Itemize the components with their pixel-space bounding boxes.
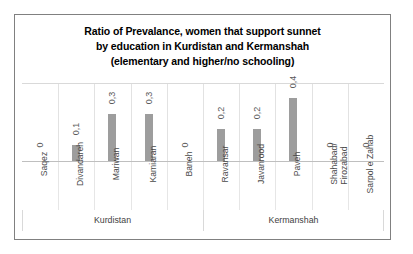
category-tick-label-line: Divandareh: [76, 142, 86, 186]
category-tick-label-line: Ravansar: [221, 146, 231, 183]
bar-value-label: 0,2: [216, 107, 226, 120]
bar-value-label: 0: [35, 142, 45, 147]
bar-value-label: 0,1: [71, 123, 81, 136]
group-axis: KurdistanKermanshah: [22, 210, 384, 231]
category-tick-label: Mariwan: [94, 164, 130, 210]
bar-column: 0,4: [275, 84, 311, 161]
category-tick-label: Divandareh: [58, 164, 94, 210]
category-tick-label: Javanrood: [239, 164, 275, 210]
chart-title-line-1: Ratio of Prevalance, women that support …: [15, 24, 390, 39]
bar-column: 0: [167, 84, 203, 161]
category-tick-label-line: Shahabad/: [330, 143, 340, 185]
group-axis-edge: [22, 210, 23, 231]
chart-title: Ratio of Prevalance, women that support …: [15, 24, 390, 69]
category-tick-label: Sarpol e Zahab: [348, 164, 384, 210]
bar-value-label: 0,3: [144, 91, 154, 104]
category-tick-label: Paveh: [275, 164, 311, 210]
bar-value-label: 0,2: [252, 107, 262, 120]
category-tick-label: Saqez: [22, 164, 58, 210]
category-tick-label: Ravansar: [203, 164, 239, 210]
group-axis-edge: [383, 210, 384, 231]
group-label: Kermanshah: [203, 215, 384, 225]
bar-value-label: 0,3: [107, 91, 117, 104]
category-tick-label-line: Baneh: [185, 152, 195, 177]
bar-value-label: 0: [180, 142, 190, 147]
category-tick-label-line: Javanrood: [257, 144, 267, 184]
category-tick-label-line: Kamiaran: [149, 146, 159, 183]
chart-container: Ratio of Prevalance, women that support …: [14, 14, 391, 240]
category-tick-label-line: Paveh: [293, 152, 303, 176]
category-tick-label: Shahabad/Firozabad: [312, 164, 348, 210]
plot-area: 00,10,30,300,20,20,400 SaqezDivandarehMa…: [22, 83, 384, 231]
category-tick-label-line: Mariwan: [112, 148, 122, 180]
group-label: Kurdistan: [22, 215, 203, 225]
bar-column: 0: [22, 84, 58, 161]
chart-title-line-3: (elementary and higher/no schooling): [15, 54, 390, 69]
category-tick-label-line: Saqez: [40, 152, 50, 176]
category-axis: SaqezDivandarehMariwanKamiaranBanehRavan…: [22, 162, 384, 210]
bar-value-label: 0,4: [288, 76, 298, 89]
category-tick-label: Baneh: [167, 164, 203, 210]
chart-title-line-2: by education in Kurdistan and Kermanshah: [15, 39, 390, 54]
category-tick-label-line: Sarpol e Zahab: [366, 135, 376, 194]
group-separator: [203, 210, 204, 231]
category-tick-label: Kamiaran: [131, 164, 167, 210]
